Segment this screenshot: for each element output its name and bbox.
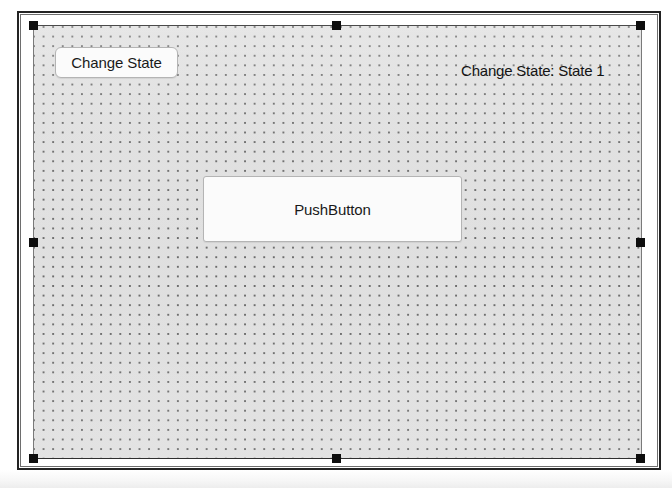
resize-handle-bottom-right[interactable] [636, 454, 645, 463]
pushbutton-widget[interactable]: PushButton [203, 176, 462, 242]
screenshot-root: Change State PushButton Change State: St… [0, 0, 672, 488]
resize-handle-top-middle[interactable] [332, 21, 341, 30]
change-state-button[interactable]: Change State [55, 47, 178, 78]
resize-handle-top-right[interactable] [636, 21, 645, 30]
form-design-canvas[interactable]: Change State PushButton Change State: St… [33, 26, 642, 459]
change-state-status-label: Change State: State 1 [461, 60, 626, 80]
resize-handle-middle-right[interactable] [636, 238, 645, 247]
resize-handle-middle-left[interactable] [29, 238, 38, 247]
resize-handle-top-left[interactable] [29, 21, 38, 30]
resize-handle-bottom-left[interactable] [29, 454, 38, 463]
resize-handle-bottom-middle[interactable] [332, 454, 341, 463]
